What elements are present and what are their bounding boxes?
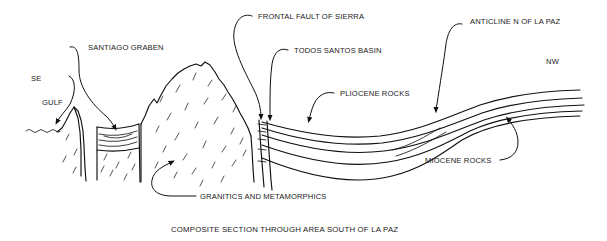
coastal-horst-outline <box>57 107 86 181</box>
santiago-graben-structure <box>97 124 140 182</box>
label-frontal-fault: FRONTAL FAULT OF SIERRA <box>258 12 365 21</box>
gulf-water-line <box>26 130 60 133</box>
label-orientation-se: SE <box>31 74 41 83</box>
frontal-fault-leader <box>234 15 261 117</box>
granitics-leader <box>152 162 196 196</box>
label-todos-santos-basin: TODOS SANTOS BASIN <box>294 46 382 55</box>
label-granitics: GRANITICS AND METAMORPHICS <box>200 192 327 201</box>
graben-basement-ornament <box>63 134 135 180</box>
pliocene-rocks-leader <box>309 92 334 120</box>
label-orientation-nw: NW <box>546 57 560 66</box>
stratigraphic-layers <box>262 90 584 180</box>
label-pliocene-rocks: PLIOCENE ROCKS <box>340 89 410 98</box>
figure-caption: COMPOSITE SECTION THROUGH AREA SOUTH OF … <box>171 225 398 234</box>
granitic-basement-ornament <box>155 73 246 186</box>
sierra-massif-outline <box>141 62 254 182</box>
miocene-rocks-leader <box>500 119 518 160</box>
label-miocene-rocks: MIOCENE ROCKS <box>425 156 492 165</box>
label-anticline: ANTICLINE N OF LA PAZ <box>470 17 561 26</box>
todos-santos-basin-leader <box>270 49 288 118</box>
label-gulf: GULF <box>42 98 63 107</box>
anticline-leader <box>436 24 462 110</box>
label-santiago-graben: SANTIAGO GRABEN <box>88 43 164 52</box>
geologic-cross-section-figure: SE GULF SANTIAGO GRABEN FRONTAL FAULT OF… <box>0 0 607 241</box>
